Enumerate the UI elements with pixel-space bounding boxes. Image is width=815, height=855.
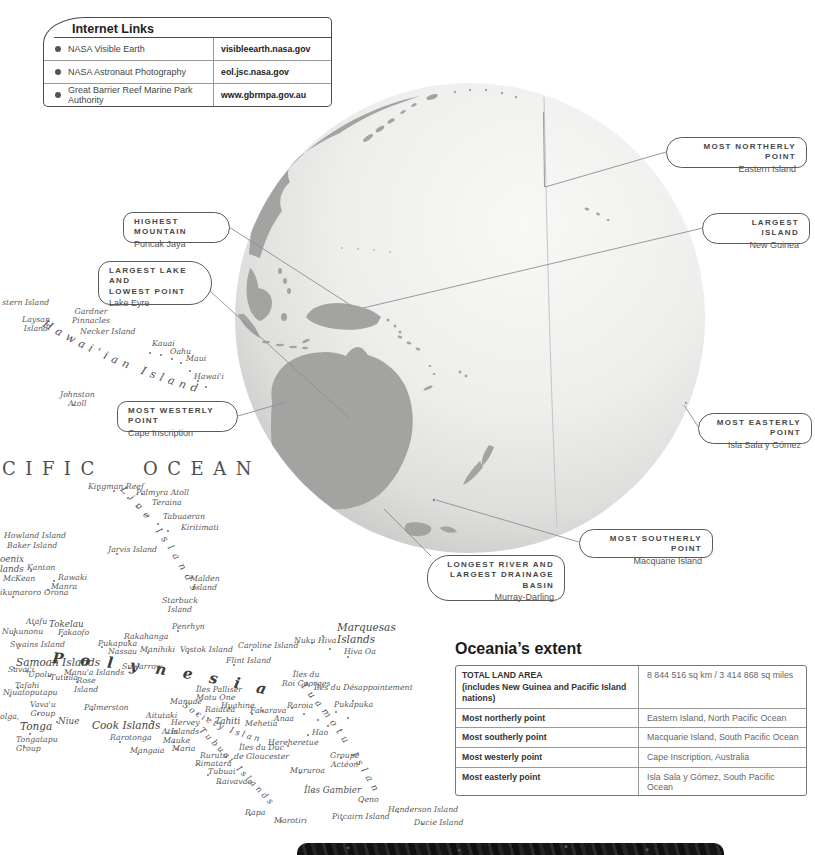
- island-dot: [157, 523, 159, 525]
- satellite-image-strip: [297, 843, 724, 855]
- internet-links-panel: Internet Links NASA Visible Earthvisible…: [43, 17, 332, 107]
- island-dot: [421, 823, 423, 825]
- island-dot: [73, 404, 75, 406]
- island-dot: [61, 635, 63, 637]
- island-dot: [205, 386, 207, 388]
- island-dot: [340, 757, 342, 759]
- island-dot: [171, 358, 173, 360]
- island-dot: [262, 710, 264, 712]
- island-dot: [219, 782, 221, 784]
- sala-y-gomez-dot: [685, 402, 687, 404]
- extent-label: Most westerly point: [456, 748, 639, 767]
- map-label: Niuatoputapu: [3, 689, 58, 698]
- island-dot: [299, 772, 301, 774]
- island-dot: [12, 596, 14, 598]
- map-label: Teraina: [152, 499, 182, 508]
- map-label: Rose Island: [74, 677, 98, 695]
- island-dot: [189, 370, 191, 372]
- extent-value: Macquarie Island, South Pacific Ocean: [639, 728, 806, 747]
- callout-largest-lake-and-lowest-point: LARGEST LAKE AND LOWEST POINTLake Eyre: [98, 261, 212, 305]
- island-dot: [397, 811, 399, 813]
- island-dot: [177, 630, 179, 632]
- extent-row: Most southerly pointMacquarie Island, So…: [456, 727, 806, 747]
- map-label: Tubuai: [208, 768, 235, 777]
- callout-largest-island: LARGEST ISLANDNew Guinea: [702, 213, 810, 244]
- pacific-ocean-label: CIFIC OCEAN: [2, 458, 261, 479]
- island-dot: [23, 745, 25, 747]
- island-dot: [352, 700, 354, 702]
- map-label: Kiritimati: [181, 524, 219, 533]
- map-label: Marotiri: [274, 817, 307, 826]
- map-label: Îles du Désappointement: [314, 684, 413, 693]
- callout-subtitle: Isla Sala y Gómez: [709, 440, 801, 450]
- island-dot: [317, 719, 319, 721]
- island-dot: [311, 642, 313, 644]
- map-label: Mururoa: [290, 767, 325, 776]
- callout-subtitle: Lake Eyre: [109, 298, 201, 308]
- map-label: Nukunonu: [2, 628, 43, 637]
- extent-row: Most westerly pointCape Inscription, Aus…: [456, 747, 806, 767]
- bullet-icon: [55, 69, 61, 75]
- link-url: www.gbrmpa.gov.au: [213, 84, 331, 106]
- callout-title: MOST EASTERLY POINT: [709, 418, 801, 439]
- map-label: Anaa: [274, 715, 294, 724]
- map-label: Niue: [58, 716, 79, 726]
- island-dot: [160, 354, 162, 356]
- island-dot: [197, 713, 199, 715]
- extent-value: Eastern Island, North Pacific Ocean: [639, 709, 806, 728]
- link-name: Great Barrier Reef Marine Park Authority: [68, 85, 213, 105]
- island-dot: [176, 748, 178, 750]
- map-label: Îles du Duc de Gloucester: [234, 744, 289, 762]
- map-label: Groupe Actéon: [330, 752, 359, 770]
- island-dot: [30, 570, 32, 572]
- extent-label: Most northerly point: [456, 709, 639, 728]
- island-dot: [149, 352, 151, 354]
- island-dot: [128, 667, 130, 669]
- callout-most-southerly-point: MOST SOUTHERLY POINTMacquarie Island: [579, 529, 713, 558]
- island-dot: [17, 647, 19, 649]
- map-label: Malden Island: [190, 575, 220, 593]
- island-dot: [341, 819, 343, 821]
- map-label: Marquesas Islands: [337, 621, 396, 645]
- extent-label: Most easterly point: [456, 768, 639, 795]
- island-dot: [47, 589, 49, 591]
- island-dot: [347, 717, 349, 719]
- map-label: Johnston Atoll: [60, 391, 95, 409]
- island-dot: [207, 774, 209, 776]
- links-rows: NASA Visible Earthvisibleearth.nasa.govN…: [44, 38, 331, 106]
- island-dot: [137, 753, 139, 755]
- island-dot: [33, 624, 35, 626]
- map-label: Maui: [186, 355, 206, 364]
- map-label: Rarotonga: [110, 734, 152, 743]
- map-label: Tabuaeran: [163, 513, 205, 522]
- island-dot: [327, 725, 329, 727]
- extent-row: TOTAL LAND AREA (includes New Guinea and…: [456, 666, 806, 708]
- extent-row: Most northerly pointEastern Island, Nort…: [456, 708, 806, 728]
- map-label: Atafu: [26, 618, 47, 627]
- extent-value: Cape Inscription, Australia: [639, 748, 806, 767]
- island-dot: [29, 733, 31, 735]
- macquarie-island-dot: [433, 499, 436, 502]
- map-label: Hao: [312, 729, 328, 738]
- island-dot: [146, 515, 148, 517]
- map-label: oenix lands: [0, 554, 24, 574]
- map-label: Baker Island: [7, 542, 57, 551]
- island-dot: [228, 707, 230, 709]
- map-label: olga,: [0, 713, 19, 722]
- callout-title: LONGEST RIVER AND LARGEST DRAINAGE BASIN: [438, 560, 554, 591]
- map-label: Îles Gambier: [304, 785, 361, 795]
- callout-most-easterly-point: MOST EASTERLY POINTIsla Sala y Gómez: [698, 413, 812, 444]
- map-label: Raivavae: [216, 778, 252, 787]
- map-label: Tonga: [20, 720, 52, 732]
- island-dot: [37, 713, 39, 715]
- map-label: Starbuck Island: [162, 597, 198, 615]
- link-row: NASA Visible Earthvisibleearth.nasa.gov: [44, 38, 331, 60]
- bullet-icon: [55, 92, 61, 98]
- island-dot: [249, 814, 251, 816]
- map-label: Pukapuka: [334, 701, 373, 710]
- extent-value: 8 844 516 sq km / 3 414 868 sq miles: [639, 666, 806, 708]
- island-dot: [53, 580, 55, 582]
- callout-subtitle: Murray-Darling: [438, 592, 554, 602]
- bullet-icon: [55, 46, 61, 52]
- island-dot: [97, 489, 99, 491]
